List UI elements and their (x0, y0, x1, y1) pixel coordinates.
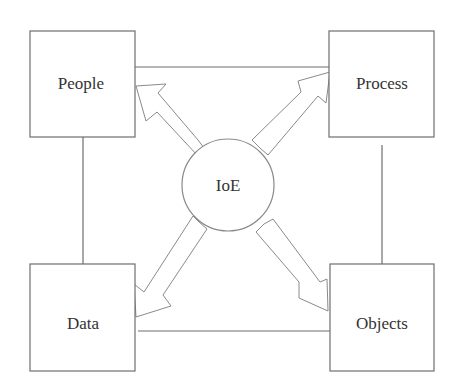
node-data-label: Data (67, 314, 100, 333)
arrow-to-people (136, 84, 204, 155)
node-objects-label: Objects (356, 314, 408, 333)
node-process-label: Process (356, 74, 408, 93)
arrow-to-data (134, 216, 207, 317)
arrow-to-process (252, 72, 330, 155)
arrow-to-objects (256, 219, 328, 311)
node-people-label: People (58, 74, 104, 93)
ioe-label: IoE (216, 176, 241, 195)
ioe-diagram: IoE People Process Data Objects (0, 0, 456, 388)
